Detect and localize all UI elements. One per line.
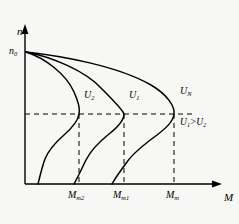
inequality-sub1: 1 [187, 122, 190, 128]
n0-label: n0 [9, 46, 17, 56]
curve-label-un-subscript: N [187, 90, 191, 97]
curve-label-u1: U1 [129, 90, 139, 100]
tick-label-mm1-subscript: m1 [121, 194, 129, 201]
curve-u1 [26, 52, 124, 184]
y-axis [22, 24, 29, 184]
curve-un [26, 52, 174, 184]
curve-label-u2: U2 [84, 90, 94, 100]
inequality-sub2: 2 [203, 122, 206, 128]
y-axis-label: n [17, 26, 23, 37]
inequality-part2: >U [190, 117, 203, 127]
speed-torque-diagram: n M n0 U2 U1 UN U1>U2 Mm2 Mm1 Mm [0, 0, 239, 224]
curve-label-u2-subscript: 2 [91, 94, 94, 101]
tick-label-mm2-subscript: m2 [76, 194, 84, 201]
tick-label-mm-subscript: m [174, 194, 179, 201]
curve-u2 [26, 52, 79, 184]
tick-label-mm2: Mm2 [68, 190, 84, 200]
inequality-part1: U [180, 117, 187, 127]
tick-label-mm: Mm [166, 190, 179, 200]
curve-label-un: UN [180, 86, 192, 96]
curve-label-u1-subscript: 1 [136, 94, 139, 101]
n0-subscript: 0 [14, 50, 17, 57]
tick-label-mm1: Mm1 [113, 190, 129, 200]
x-axis-label: M [224, 192, 233, 203]
inequality-annotation: U1>U2 [180, 118, 206, 128]
